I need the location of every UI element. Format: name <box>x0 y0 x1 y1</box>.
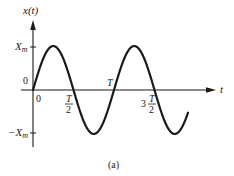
y-axis-label: x(t) <box>22 4 39 17</box>
x-tick-label-origin: 0 <box>36 93 41 104</box>
x-axis-label: t <box>220 83 224 95</box>
sine-wave-diagram: x(t) Xm 0 −Xm 0 T 2 T 3 T 2 t (a) <box>0 0 234 176</box>
y-tick-label-max: Xm <box>14 40 28 54</box>
x-tick-label-period: T <box>107 77 114 88</box>
y-axis-arrow-icon <box>30 20 36 30</box>
x-tick-label-three-half-period: 3 T 2 <box>141 93 156 115</box>
y-tick-label-min: −Xm <box>8 126 28 140</box>
svg-text:T: T <box>66 93 73 104</box>
y-tick-label-zero: 0 <box>23 75 28 86</box>
svg-text:3: 3 <box>141 98 146 109</box>
t-axis-arrow-icon <box>206 87 216 93</box>
svg-text:2: 2 <box>149 104 154 115</box>
x-tick-label-half-period: T 2 <box>65 93 73 115</box>
svg-text:2: 2 <box>66 104 71 115</box>
figure-caption: (a) <box>108 159 119 171</box>
